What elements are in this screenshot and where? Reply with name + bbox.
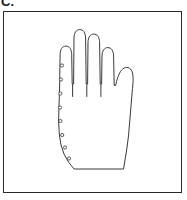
figure-panel: C. bbox=[0, 0, 187, 200]
figure-border bbox=[3, 11, 182, 193]
figure-label: C. bbox=[1, 0, 14, 8]
